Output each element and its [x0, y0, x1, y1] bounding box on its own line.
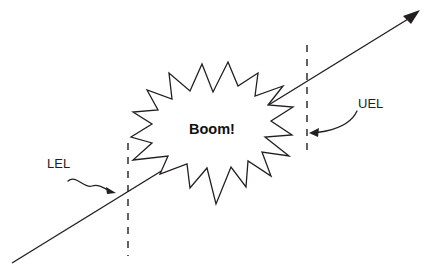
lel-arrowhead-icon — [106, 187, 116, 194]
lel-label: LEL — [47, 156, 70, 171]
uel-curved-arrow-path — [314, 111, 357, 133]
explosion-label: Boom! — [189, 121, 235, 137]
diagram-canvas: Boom! LEL UEL — [0, 0, 432, 272]
lel-curved-arrow-path — [68, 179, 110, 191]
explosive-limits-diagram: Boom! LEL UEL — [0, 0, 432, 272]
uel-callout: UEL — [309, 96, 383, 137]
uel-label: UEL — [358, 96, 383, 111]
lel-callout: LEL — [47, 156, 116, 194]
uel-arrowhead-icon — [309, 128, 319, 137]
trend-arrowhead-icon — [403, 10, 420, 24]
